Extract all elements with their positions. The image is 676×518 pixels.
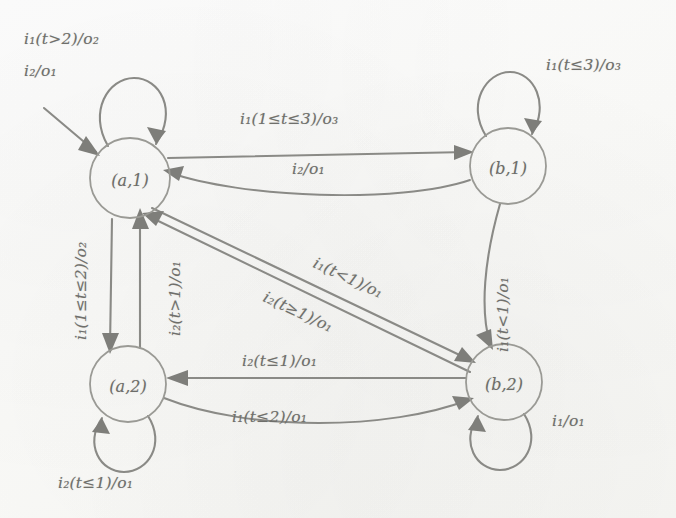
label-a2-self-loop: i₂(t≤1)/o₁ — [58, 474, 133, 492]
arrowhead-b1-self-loop — [524, 118, 542, 134]
label-a2-to-b2: i₁(t≤2)/o₁ — [232, 408, 307, 426]
label-a1-to-a2: i₁(1≤t≤2)/o₂ — [72, 242, 90, 340]
edge-a1-to-b1 — [168, 152, 468, 158]
edge-a1-to-b2 — [152, 208, 470, 360]
diagram-canvas: (a,1) (b,1) (a,2) (b,2) i₁(t>2)/o₂ i₂/o₁… — [0, 0, 676, 518]
edge-a1-to-a2 — [110, 219, 112, 348]
state-label-a1: (a,1) — [111, 171, 148, 190]
label-a1-to-b1: i₁(1≤t≤3)/o₃ — [240, 110, 338, 128]
label-b1-to-b2: i₁(t<1)/o₁ — [494, 277, 512, 352]
arrowhead-b1-to-a1 — [163, 166, 184, 181]
label-a1-self-loop-2: i₂/o₁ — [24, 62, 57, 80]
arrowhead-a2-to-b2 — [452, 396, 474, 410]
label-b2-self-loop: i₁/o₁ — [552, 412, 585, 430]
state-label-b1: (b,1) — [489, 159, 527, 178]
arrowhead-a2-self-loop — [92, 418, 110, 434]
state-machine-svg — [0, 0, 676, 518]
arrowhead-b2-self-loop — [468, 416, 486, 432]
arrowhead-b2-to-a2 — [166, 370, 188, 386]
label-b1-self-loop: i₁(t≤3)/o₃ — [546, 56, 621, 74]
label-a2-to-a1: i₂(t>1)/o₁ — [166, 261, 184, 336]
label-b1-to-a1: i₂/o₁ — [292, 160, 325, 178]
state-label-a2: (a,2) — [109, 377, 146, 396]
edge-b2-to-a1 — [148, 216, 470, 372]
label-a1-self-loop-1: i₁(t>2)/o₂ — [24, 30, 99, 48]
state-label-b2: (b,2) — [485, 375, 523, 394]
edge-a2-to-b2 — [164, 398, 468, 423]
label-b2-to-a2: i₂(t≤1)/o₁ — [242, 352, 317, 370]
